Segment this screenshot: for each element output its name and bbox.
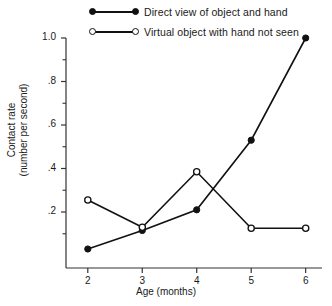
- series-line: [88, 172, 306, 229]
- open-circle-data-point: [139, 224, 145, 230]
- y-axis-title: Contact rate (number per second): [6, 65, 30, 195]
- x-axis-ticks: [88, 268, 306, 273]
- x-axis-tick-label: 3: [132, 275, 152, 286]
- filled-circle-data-point: [194, 207, 200, 213]
- open-circle-data-point: [85, 197, 91, 203]
- y-axis-tick-label: 1.0: [30, 31, 56, 42]
- filled-circle-data-point: [248, 137, 254, 143]
- open-circle-data-point: [303, 225, 309, 231]
- series-line: [88, 38, 306, 249]
- data-series-group: [85, 35, 309, 252]
- x-axis-tick-label: 6: [296, 275, 316, 286]
- chart-figure: Direct view of object and hand Virtual o…: [0, 0, 332, 306]
- y-axis-tick-label: .4: [30, 162, 56, 173]
- y-axis-tick-label: .2: [30, 205, 56, 216]
- x-axis-tick-label: 2: [78, 275, 98, 286]
- x-axis-title: Age (months): [0, 286, 332, 297]
- filled-circle-data-point: [303, 35, 309, 41]
- y-axis-tick-label: .6: [30, 118, 56, 129]
- open-circle-data-point: [194, 169, 200, 175]
- filled-circle-data-point: [85, 246, 91, 252]
- x-axis-tick-label: 5: [241, 275, 261, 286]
- open-circle-data-point: [248, 225, 254, 231]
- y-axis-ticks: [61, 38, 66, 234]
- axis-lines: [66, 38, 322, 268]
- chart-plot-area: [0, 0, 332, 306]
- x-axis-tick-label: 4: [187, 275, 207, 286]
- y-axis-tick-label: .8: [30, 75, 56, 86]
